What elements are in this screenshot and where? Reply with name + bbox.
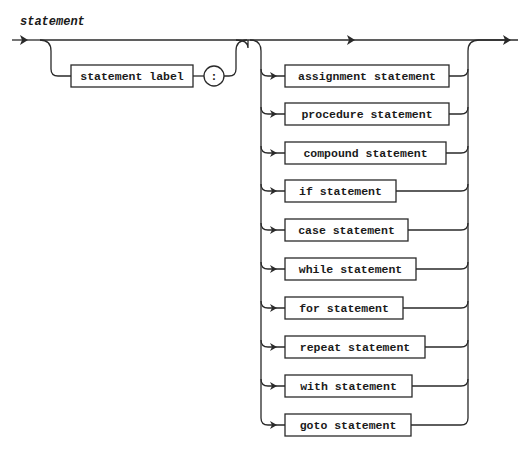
entry-arrow-icon xyxy=(12,35,40,45)
alternative-label: while statement xyxy=(299,263,403,276)
alternative-case-statement: case statement xyxy=(261,219,468,241)
alternative-if-statement: if statement xyxy=(261,180,468,202)
alternative-with-statement: with statement xyxy=(261,375,468,397)
alternative-procedure-statement: procedure statement xyxy=(261,103,468,125)
right-bus xyxy=(468,40,479,418)
alternative-label: with statement xyxy=(300,380,397,393)
colon-node: : xyxy=(204,66,224,86)
alternative-label: for statement xyxy=(299,302,389,315)
alternative-label: goto statement xyxy=(300,419,397,432)
alternative-label: case statement xyxy=(298,224,395,237)
alternative-label: assignment statement xyxy=(298,70,436,83)
alternative-while-statement: while statement xyxy=(261,258,468,280)
left-bus xyxy=(250,40,261,418)
alternative-for-statement: for statement xyxy=(261,297,468,319)
alternative-label: procedure statement xyxy=(301,108,432,121)
alternative-compound-statement: compound statement xyxy=(261,142,468,164)
alternative-label: if statement xyxy=(299,185,382,198)
alternative-label: repeat statement xyxy=(300,341,410,354)
alternative-repeat-statement: repeat statement xyxy=(261,336,468,358)
syntax-diagram: statement label : assignment statementpr… xyxy=(0,0,530,460)
alternative-assignment-statement: assignment statement xyxy=(261,65,468,87)
alternative-goto-statement: goto statement xyxy=(261,414,468,436)
statement-label-text: statement label xyxy=(80,70,184,83)
statement-label-node: statement label xyxy=(71,65,193,87)
colon-text: : xyxy=(211,70,218,83)
alternative-label: compound statement xyxy=(303,147,427,160)
label-branch xyxy=(40,40,71,76)
